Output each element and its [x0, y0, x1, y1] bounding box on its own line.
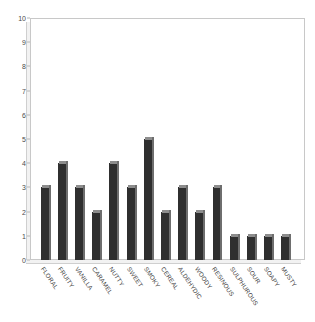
- y-axis-tick-label: 8: [22, 63, 26, 70]
- bar[interactable]: [247, 236, 255, 260]
- y-axis-tick-label: 1: [22, 232, 26, 239]
- x-axis-tick: VANILLA: [75, 264, 83, 322]
- y-axis-tick-label: 2: [22, 208, 26, 215]
- x-axis-tick: SOUR: [247, 264, 255, 322]
- x-axis-tick-label: NUTTY: [108, 266, 125, 287]
- bar-chart: 012345678910 FLORALFRUITYVANILLACARAMELN…: [0, 0, 315, 322]
- bar-side-face: [49, 185, 51, 260]
- bar-side-face: [100, 210, 102, 260]
- bar-side-face: [255, 234, 257, 260]
- bar[interactable]: [161, 212, 169, 260]
- bar-slot: [281, 18, 289, 260]
- bar-slot: [195, 18, 203, 260]
- x-axis-tick: NUTTY: [109, 264, 117, 322]
- bar[interactable]: [264, 236, 272, 260]
- bar-side-face: [289, 234, 291, 260]
- bar[interactable]: [213, 187, 221, 260]
- bar-side-face: [169, 210, 171, 260]
- y-axis-tick-label: 5: [22, 136, 26, 143]
- bar-side-face: [220, 185, 222, 260]
- x-axis-tick: SOAPY: [264, 264, 272, 322]
- bar[interactable]: [178, 187, 186, 260]
- y-axis-tick-label: 10: [18, 15, 26, 22]
- bar[interactable]: [92, 212, 100, 260]
- bar[interactable]: [144, 139, 152, 260]
- bar-slot: [127, 18, 135, 260]
- x-axis-tick-label: FRUITY: [57, 266, 75, 289]
- bar-slot: [92, 18, 100, 260]
- bar[interactable]: [58, 163, 66, 260]
- bar-slot: [178, 18, 186, 260]
- x-axis-tick: SWEET: [127, 264, 135, 322]
- bar-side-face: [117, 161, 119, 260]
- x-axis-tick: FRUITY: [58, 264, 66, 322]
- x-axis-labels: FLORALFRUITYVANILLACARAMELNUTTYSWEETSMOK…: [30, 264, 305, 322]
- x-axis-tick-label: SMOKY: [143, 266, 161, 289]
- x-axis-tick-label: MUSTY: [280, 266, 298, 288]
- bar[interactable]: [41, 187, 49, 260]
- bar-slot: [41, 18, 49, 260]
- bar-side-face: [203, 210, 205, 260]
- bar[interactable]: [109, 163, 117, 260]
- x-axis-tick: WOODY: [195, 264, 203, 322]
- x-axis-tick-label: SOAPY: [263, 266, 281, 288]
- bar-slot: [144, 18, 152, 260]
- bar-side-face: [152, 137, 154, 260]
- x-axis-tick: RESINOUS: [213, 264, 221, 322]
- bar-slot: [109, 18, 117, 260]
- bar-side-face: [135, 185, 137, 260]
- bar-slot: [264, 18, 272, 260]
- x-axis-tick-label: SWEET: [125, 266, 143, 289]
- bar-slot: [230, 18, 238, 260]
- x-axis-tick: ALDEHYDIC: [178, 264, 186, 322]
- bar-slot: [58, 18, 66, 260]
- bar[interactable]: [127, 187, 135, 260]
- x-axis-tick-label: FLORAL: [39, 266, 58, 290]
- x-axis-tick: CARAMEL: [92, 264, 100, 322]
- bar-slot: [213, 18, 221, 260]
- bar-side-face: [66, 161, 68, 260]
- bar-side-face: [83, 185, 85, 260]
- x-axis-tick: FLORAL: [41, 264, 49, 322]
- x-axis-tick-label: SOUR: [246, 266, 262, 285]
- y-axis-tick-label: 6: [22, 111, 26, 118]
- y-axis-tick-label: 9: [22, 39, 26, 46]
- bar-side-face: [272, 234, 274, 260]
- bar-side-face: [238, 234, 240, 260]
- bar-slot: [161, 18, 169, 260]
- bars-layer: [30, 18, 305, 260]
- x-axis-tick: SULPHUROUS: [230, 264, 238, 322]
- bar-slot: [75, 18, 83, 260]
- bar-side-face: [186, 185, 188, 260]
- bar[interactable]: [75, 187, 83, 260]
- y-axis-tick-label: 4: [22, 160, 26, 167]
- x-axis-tick: MUSTY: [281, 264, 289, 322]
- y-axis-tick-label: 0: [22, 257, 26, 264]
- bar[interactable]: [281, 236, 289, 260]
- y-axis-tick-label: 7: [22, 87, 26, 94]
- bar-slot: [247, 18, 255, 260]
- y-axis: 012345678910: [0, 18, 30, 260]
- y-axis-tick-label: 3: [22, 184, 26, 191]
- x-axis-tick: SMOKY: [144, 264, 152, 322]
- bar[interactable]: [195, 212, 203, 260]
- bar[interactable]: [230, 236, 238, 260]
- x-axis-tick: CEREAL: [161, 264, 169, 322]
